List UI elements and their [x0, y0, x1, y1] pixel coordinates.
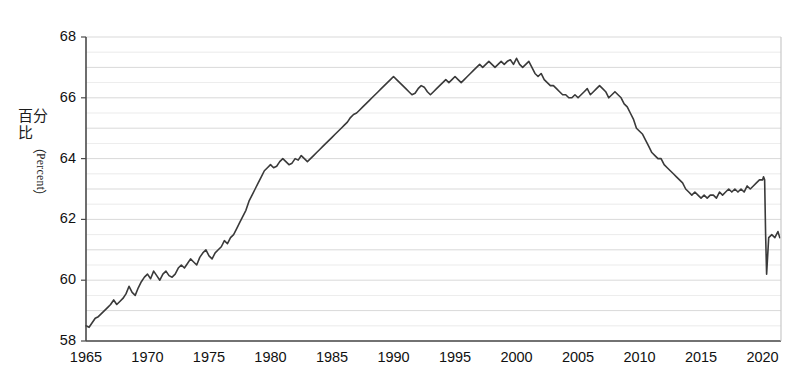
y-tick-label: 62 — [50, 210, 76, 226]
x-tick-label: 2010 — [617, 349, 663, 365]
data-series-layer — [86, 58, 780, 327]
x-tick-label: 1995 — [432, 349, 478, 365]
y-tick-label: 58 — [50, 332, 76, 348]
y-tick-label: 66 — [50, 89, 76, 105]
x-tick-label: 2005 — [555, 349, 601, 365]
x-tick-label: 1980 — [248, 349, 294, 365]
x-tick-label: 2015 — [678, 349, 724, 365]
x-tick-label: 1990 — [371, 349, 417, 365]
x-tick-label: 2000 — [494, 349, 540, 365]
series-line — [86, 58, 780, 327]
y-tick-label: 68 — [50, 28, 76, 44]
gridlines — [86, 37, 781, 341]
chart-container: 百分比 （ Percent ） 586062646668 19651970197… — [0, 0, 808, 390]
x-tick-label: 1975 — [186, 349, 232, 365]
x-tick-label: 2020 — [740, 349, 786, 365]
x-tick-label: 1970 — [125, 349, 171, 365]
x-tick-label: 1965 — [63, 349, 109, 365]
y-tick-label: 64 — [50, 150, 76, 166]
x-tick-label: 1985 — [309, 349, 355, 365]
y-tick-label: 60 — [50, 271, 76, 287]
plot-area — [0, 0, 808, 390]
